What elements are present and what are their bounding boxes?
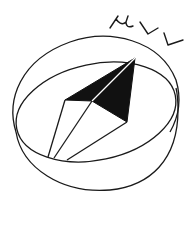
- compass-band-bottom: [16, 110, 178, 190]
- compass-face-ellipse: [7, 48, 185, 176]
